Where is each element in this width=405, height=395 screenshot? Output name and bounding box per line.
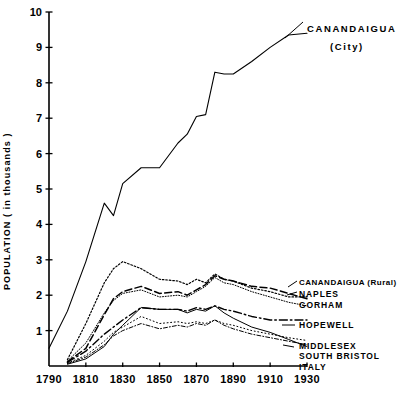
axes <box>49 12 307 366</box>
plot-area: 12345678910 1790181018301850187018901910… <box>0 0 405 395</box>
data-series-group <box>49 33 307 364</box>
label-canandaigua-rural: CANANDAIGUA (Rural) <box>299 278 397 287</box>
label-canandaigua-city-1: CANANDAIGUA <box>307 23 396 34</box>
y-tick-label: 1 <box>36 325 42 337</box>
x-tick-label: 1790 <box>36 373 62 385</box>
leader-middlesex <box>283 345 294 347</box>
x-tick-label: 1870 <box>183 373 209 385</box>
y-tick-label: 7 <box>36 112 42 124</box>
series-line-south-bristol <box>67 320 307 364</box>
label-gorham: GORHAM <box>299 300 343 310</box>
y-tick-label: 8 <box>36 77 42 89</box>
series-line-naples <box>67 276 307 362</box>
label-middlesex: MIDDLESEX <box>299 341 357 351</box>
leader-city <box>285 22 303 38</box>
leader-rural <box>288 281 297 287</box>
x-tick-label: 1830 <box>110 373 136 385</box>
series-line-middlesex <box>67 316 307 363</box>
y-tick-label: 2 <box>36 289 42 301</box>
series-line-canandaigua-city <box>49 33 307 348</box>
x-tick-label: 1850 <box>147 373 173 385</box>
label-canandaigua-city-2: (City) <box>330 41 364 52</box>
series-labels: CANANDAIGUA(City)CANANDAIGUA (Rural)NAPL… <box>299 23 397 372</box>
label-hopewell: HOPEWELL <box>299 320 354 330</box>
x-tick-label: 1910 <box>257 373 283 385</box>
label-naples: NAPLES <box>299 289 339 299</box>
y-tick-label: 4 <box>36 218 43 230</box>
y-tick-label: 5 <box>36 183 42 195</box>
label-italy: ITALY <box>299 362 327 372</box>
population-line-chart: POPULATION ( in thousands ) 12345678910 … <box>0 0 405 395</box>
y-tick-label: 3 <box>36 254 42 266</box>
x-tick-label: 1930 <box>294 373 320 385</box>
series-line-canandaigua-rural <box>67 262 307 360</box>
y-tick-label: 6 <box>36 148 42 160</box>
x-tick-label: 1810 <box>73 373 99 385</box>
y-tick-label: 9 <box>36 41 42 53</box>
label-south-bristol: SOUTH BRISTOL <box>299 351 380 361</box>
series-line-gorham <box>67 278 307 362</box>
x-tick-label: 1890 <box>220 373 246 385</box>
y-tick-label: 10 <box>30 6 42 18</box>
